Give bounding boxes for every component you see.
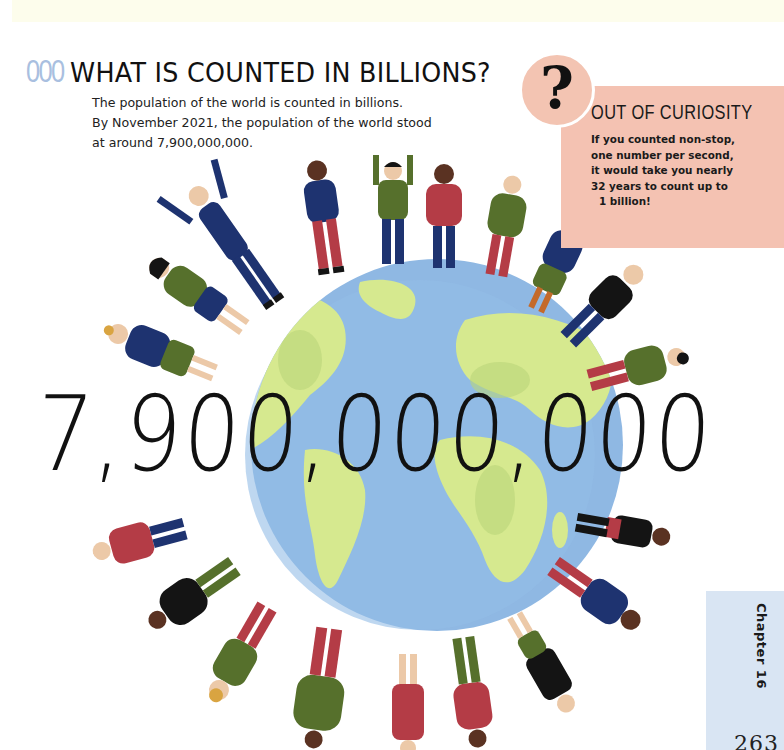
curiosity-line: one number per second, [591,148,774,164]
curiosity-line: If you counted non-stop, [591,132,774,148]
curiosity-line: it would take you nearly [591,163,774,179]
chapter-tab: Chapter 16 263 [706,591,784,750]
population-number: 7,900,000,000 [33,382,716,486]
curiosity-line: 1 billion! [591,194,774,210]
section-number: 000 [26,54,64,90]
curiosity-line: 32 years to count up to [591,179,774,195]
question-mark-icon: ? [519,52,595,128]
curiosity-body: If you counted non-stop, one number per … [591,132,774,210]
out-of-curiosity-box: OUT OF CURIOSITY If you counted non-stop… [561,86,784,248]
top-band [12,0,784,22]
page-number: 263 [734,731,779,750]
intro-line: By November 2021, the population of the … [92,113,512,133]
question-mark-glyph: ? [540,59,574,117]
section-title: WHAT IS COUNTED IN BILLIONS? [70,57,491,88]
curiosity-title: OUT OF CURIOSITY [591,100,734,124]
section-heading: 000 WHAT IS COUNTED IN BILLIONS? [26,54,517,90]
chapter-label: Chapter 16 [754,603,769,689]
intro-line: The population of the world is counted i… [92,93,512,113]
